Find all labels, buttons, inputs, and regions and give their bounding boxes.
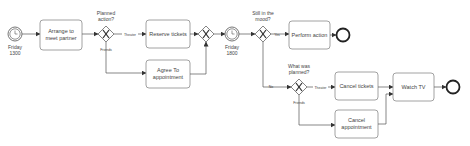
task-reserve-label: Reserve tickets bbox=[149, 31, 187, 37]
task-arrange-to-meet-partner[interactable]: Arrange to meet partner bbox=[40, 20, 82, 50]
task-cancel-appt-label-2: appointment bbox=[341, 124, 372, 130]
gateway-join[interactable] bbox=[198, 26, 214, 42]
gateway-still-in-mood[interactable] bbox=[255, 26, 271, 42]
start-timer-label-2: 1300 bbox=[9, 50, 20, 56]
task-perform-action[interactable]: Perform action bbox=[289, 21, 330, 49]
flow-label-theater-2: Theater bbox=[314, 86, 327, 90]
flow-label-yes: Yes bbox=[274, 33, 280, 37]
flow-friends-1 bbox=[106, 42, 146, 73]
flow-cancel-appt-to-tv bbox=[378, 94, 393, 124]
flow-label-no: No bbox=[269, 85, 274, 89]
flow-label-theater-1: Theater bbox=[124, 33, 137, 37]
gateway-planned-action[interactable] bbox=[98, 26, 114, 42]
flow-no bbox=[263, 42, 291, 87]
gateway-planned-label-2: action? bbox=[98, 16, 114, 22]
task-agree-to-appointment[interactable]: Agree To appointment bbox=[146, 60, 190, 88]
intermediate-timer-event[interactable] bbox=[225, 27, 239, 41]
task-arrange-label-2: meet partner bbox=[45, 35, 76, 41]
start-timer-event[interactable] bbox=[8, 27, 22, 41]
end-event-2[interactable] bbox=[447, 81, 460, 94]
mid-timer-label-2: 1800 bbox=[226, 50, 237, 56]
flow-label-friends-1: Friends bbox=[100, 48, 112, 52]
gateway-what-was-planned[interactable] bbox=[291, 79, 307, 95]
task-reserve-tickets[interactable]: Reserve tickets bbox=[146, 20, 190, 48]
end-event-1[interactable] bbox=[337, 29, 350, 42]
task-watch-tv-label: Watch TV bbox=[402, 84, 426, 90]
flow-agree-to-join bbox=[190, 42, 206, 74]
task-arrange-label-1: Arrange to bbox=[48, 28, 74, 34]
gateway-mood-label-2: mood? bbox=[255, 16, 271, 22]
task-cancel-appointment[interactable]: Cancel appointment bbox=[335, 110, 378, 138]
task-cancel-tickets-label: Cancel tickets bbox=[339, 83, 373, 89]
bpmn-diagram: Friday 1300 Arrange to meet partner Plan… bbox=[0, 0, 470, 146]
task-cancel-appt-label-1: Cancel bbox=[348, 117, 365, 123]
gateway-what-label-2: planned? bbox=[289, 69, 310, 75]
flow-label-friends-2: Friends bbox=[293, 101, 305, 105]
task-watch-tv[interactable]: Watch TV bbox=[393, 73, 434, 101]
task-cancel-tickets[interactable]: Cancel tickets bbox=[335, 72, 378, 100]
task-perform-label: Perform action bbox=[292, 32, 328, 38]
task-agree-label-1: Agree To bbox=[157, 67, 179, 73]
flow-friends-2 bbox=[299, 95, 335, 125]
task-agree-label-2: appointment bbox=[153, 74, 184, 80]
